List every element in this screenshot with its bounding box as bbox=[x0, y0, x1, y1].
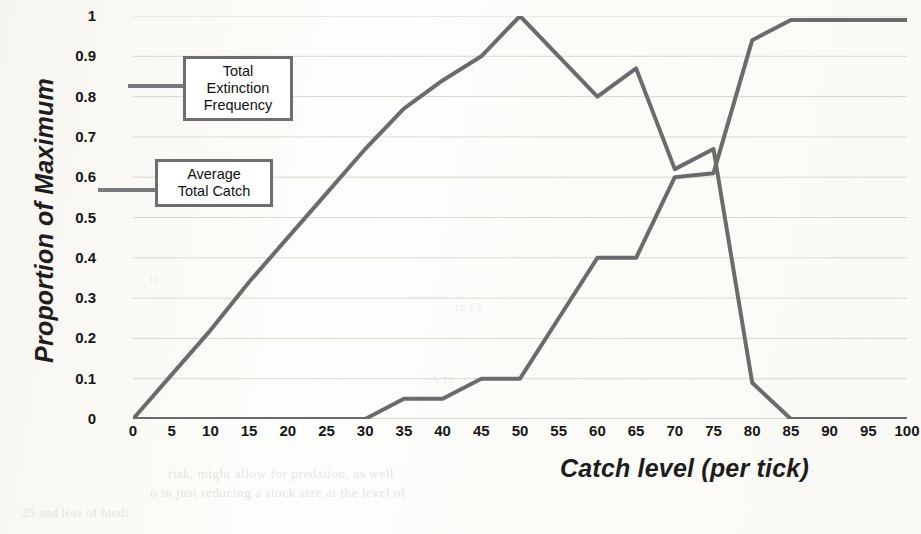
x-tick-label: 50 bbox=[500, 422, 540, 439]
x-tick-label: 65 bbox=[616, 422, 656, 439]
callout-line-1: Total bbox=[193, 63, 283, 80]
x-tick-label: 40 bbox=[423, 422, 463, 439]
y-tick-label: 0.6 bbox=[50, 168, 96, 185]
x-tick-label: 55 bbox=[539, 422, 579, 439]
x-tick-label: 35 bbox=[384, 422, 424, 439]
x-tick-label: 60 bbox=[577, 422, 617, 439]
callout-line-2: Total Catch bbox=[165, 183, 263, 200]
x-tick-label: 75 bbox=[694, 422, 734, 439]
y-axis-tick-labels: 00.10.20.30.40.50.60.70.80.91 bbox=[50, 0, 96, 434]
x-tick-label: 70 bbox=[655, 422, 695, 439]
x-tick-label: 45 bbox=[461, 422, 501, 439]
y-tick-label: 0.2 bbox=[50, 329, 96, 346]
x-tick-label: 15 bbox=[229, 422, 269, 439]
y-tick-label: 0.8 bbox=[50, 88, 96, 105]
y-tick-label: 0 bbox=[50, 410, 96, 427]
y-tick-label: 0.4 bbox=[50, 249, 96, 266]
callout-total-extinction-frequency: Total Extinction Frequency bbox=[183, 56, 293, 121]
callout-line-1: Average bbox=[165, 166, 263, 183]
y-tick-label: 0.3 bbox=[50, 289, 96, 306]
x-tick-label: 20 bbox=[268, 422, 308, 439]
y-tick-label: 1 bbox=[50, 7, 96, 24]
x-tick-label: 0 bbox=[113, 422, 153, 439]
x-tick-label: 10 bbox=[190, 422, 230, 439]
callout-line-3: Frequency bbox=[193, 97, 283, 114]
x-tick-label: 25 bbox=[307, 422, 347, 439]
x-tick-label: 100 bbox=[887, 422, 921, 439]
y-tick-label: 0.9 bbox=[50, 47, 96, 64]
x-tick-label: 30 bbox=[345, 422, 385, 439]
x-tick-label: 95 bbox=[848, 422, 888, 439]
callout-line-2: Extinction bbox=[193, 80, 283, 97]
callout-leader-extinction bbox=[128, 84, 184, 88]
x-tick-label: 80 bbox=[732, 422, 772, 439]
x-axis-title: Catch level (per tick) bbox=[560, 454, 809, 483]
x-tick-label: 85 bbox=[771, 422, 811, 439]
x-tick-label: 5 bbox=[152, 422, 192, 439]
callout-leader-catch bbox=[98, 188, 156, 192]
y-tick-label: 0.7 bbox=[50, 128, 96, 145]
y-tick-label: 0.1 bbox=[50, 370, 96, 387]
x-tick-label: 90 bbox=[810, 422, 850, 439]
callout-average-total-catch: Average Total Catch bbox=[155, 159, 273, 207]
chart-figure: Proportion of Maximum Catch level (per t… bbox=[0, 0, 921, 534]
y-tick-label: 0.5 bbox=[50, 209, 96, 226]
